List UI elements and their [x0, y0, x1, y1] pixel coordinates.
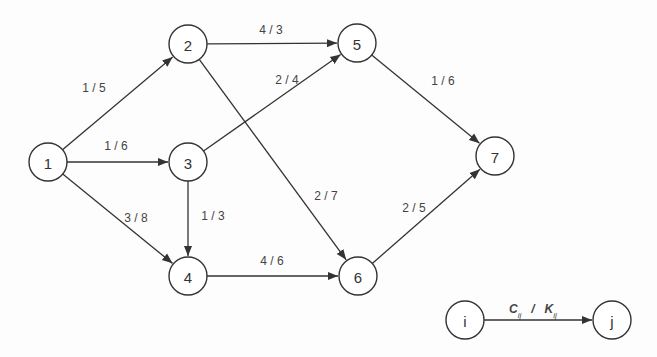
edge-label-2-5: 4 / 3 [259, 23, 283, 37]
edge-label-4-6: 4 / 6 [260, 254, 284, 268]
arrow-icon [372, 169, 480, 263]
edge-1-4 [63, 174, 173, 263]
node-label: 1 [44, 155, 52, 172]
edge-label-6-7: 2 / 5 [402, 201, 426, 215]
edge-3-5 [204, 55, 341, 152]
node-label: 4 [184, 269, 192, 286]
node-label: 5 [353, 36, 361, 53]
edge-label-1-2: 1 / 5 [82, 81, 106, 95]
edge-label-3-5: 2 / 4 [275, 73, 299, 87]
node-label: i [463, 313, 466, 330]
node-2: 2 [169, 25, 207, 63]
edge-labels-layer: 1 / 51 / 63 / 84 / 32 / 72 / 41 / 34 / 6… [82, 23, 455, 268]
graph-svg: 1 / 51 / 63 / 84 / 32 / 72 / 41 / 34 / 6… [0, 0, 657, 357]
edge-label-1-4: 3 / 8 [124, 211, 148, 225]
arrow-icon [63, 57, 173, 150]
edge-1-2 [63, 57, 173, 150]
node-label: j [609, 313, 613, 330]
arrow-icon [372, 55, 480, 143]
network-diagram: 1 / 51 / 63 / 84 / 32 / 72 / 41 / 34 / 6… [0, 0, 657, 357]
arrow-icon [199, 59, 346, 260]
node-4: 4 [169, 257, 207, 295]
legend: ijCij / Kij [446, 301, 631, 339]
node-label: 7 [491, 149, 499, 166]
edge-2-6 [199, 59, 346, 260]
edge-2-5 [207, 43, 337, 44]
node-7: 7 [476, 137, 514, 175]
node-5: 5 [338, 24, 376, 62]
node-3: 3 [169, 143, 207, 181]
legend-node-i: i [446, 301, 484, 339]
edge-label-2-6: 2 / 7 [314, 189, 338, 203]
node-6: 6 [339, 257, 377, 295]
edge-6-7 [372, 169, 480, 263]
edge-5-7 [372, 55, 480, 143]
node-label: 2 [184, 37, 192, 54]
arrow-icon [63, 174, 173, 263]
arrow-icon [207, 43, 337, 44]
node-1: 1 [29, 143, 67, 181]
legend-edge-label: Cij / Kij [509, 302, 557, 320]
edges-layer [63, 43, 480, 276]
edge-label-1-3: 1 / 6 [104, 139, 128, 153]
edge-label-5-7: 1 / 6 [431, 74, 455, 88]
node-label: 3 [184, 155, 192, 172]
edge-label-3-4: 1 / 3 [201, 209, 225, 223]
node-label: 6 [354, 269, 362, 286]
arrow-icon [204, 55, 341, 152]
legend-node-j: j [593, 301, 631, 339]
